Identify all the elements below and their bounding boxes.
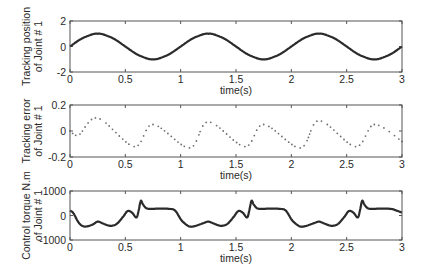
tick-layer: 00.511.522.5310000-1000 <box>39 185 405 253</box>
data-point <box>310 130 312 132</box>
data-point <box>84 126 86 128</box>
data-point <box>253 135 255 137</box>
y-tick-label: 0.2 <box>51 99 66 111</box>
data-point <box>349 144 351 146</box>
x-tick-label: 2 <box>288 158 294 170</box>
data-point <box>170 136 172 138</box>
y-axis-label-line2: of Joint # 1 <box>32 105 44 157</box>
data-point <box>152 124 154 126</box>
data-point <box>268 126 270 128</box>
x-tick-label: 2 <box>288 73 294 85</box>
x-tick-label: 2.5 <box>339 73 354 85</box>
x-tick-label: 0 <box>67 241 73 253</box>
data-point <box>140 140 142 142</box>
data-point <box>259 125 261 127</box>
data-point <box>288 141 290 143</box>
data-point <box>99 118 101 120</box>
data-point <box>248 144 250 146</box>
x-tick-label: 0.5 <box>118 241 133 253</box>
data-point <box>278 133 280 135</box>
data-point <box>370 126 372 128</box>
data-point <box>284 139 286 141</box>
data-point <box>79 133 81 135</box>
data-series-position <box>70 34 402 60</box>
data-point <box>316 120 318 122</box>
subplot-tracking-position: Tracking position of Joint # 1 00.511.52… <box>20 7 405 96</box>
x-tick-label: 0 <box>67 158 73 170</box>
x-axis-label: time(s) <box>220 84 252 96</box>
data-point <box>205 122 207 124</box>
data-point <box>229 136 231 138</box>
data-point <box>137 144 139 146</box>
data-point <box>167 133 169 135</box>
data-point <box>174 138 176 140</box>
data-point <box>308 137 310 139</box>
data-point <box>198 134 200 136</box>
y-axis-label: Tracking error of Joint # 1 <box>20 98 44 163</box>
data-point <box>183 145 185 147</box>
data-point <box>346 141 348 143</box>
data-point <box>388 131 390 133</box>
data-point <box>362 141 364 143</box>
x-tick-label: 2 <box>288 241 294 253</box>
x-tick-label: 0 <box>67 73 73 85</box>
y-axis-label-line1: Tracking position <box>20 7 32 86</box>
data-point <box>251 140 253 142</box>
data-point <box>398 138 400 140</box>
data-point <box>321 120 323 122</box>
data-point <box>118 135 120 137</box>
data-point <box>239 144 241 146</box>
x-axis-label: time(s) <box>220 252 252 264</box>
data-point <box>303 145 305 147</box>
data-point <box>365 135 367 137</box>
data-point <box>367 130 369 132</box>
data-point <box>164 130 166 132</box>
data-point <box>189 147 191 149</box>
data-point <box>82 130 84 132</box>
data-point <box>359 144 361 146</box>
data-point <box>236 142 238 144</box>
x-tick-label: 1 <box>178 73 184 85</box>
data-point <box>274 130 276 132</box>
data-point <box>202 125 204 127</box>
data-point <box>394 135 396 137</box>
y-axis-label: Tracking position of Joint # 1 <box>20 7 44 86</box>
data-point <box>333 129 335 131</box>
data-point <box>222 130 224 132</box>
data-point <box>226 133 228 135</box>
y-tick-label: 2 <box>60 15 66 27</box>
data-point <box>105 122 107 124</box>
data-point <box>244 146 246 148</box>
data-point <box>145 130 147 132</box>
x-axis-label: time(s) <box>220 169 252 181</box>
data-point <box>309 133 311 135</box>
data-series-torque <box>70 201 402 227</box>
x-tick-label: 1 <box>178 241 184 253</box>
x-tick-label: 2.5 <box>339 241 354 253</box>
data-point <box>87 122 89 124</box>
data-point <box>340 136 342 138</box>
data-point <box>373 124 375 126</box>
y-tick-label: -0.2 <box>48 151 66 163</box>
data-point <box>291 144 293 146</box>
data-point <box>91 119 93 121</box>
data-point <box>199 131 201 133</box>
data-point <box>148 125 150 127</box>
y-axis-label-line2: of Joint # 1 <box>32 21 44 73</box>
x-tick-label: 0.5 <box>118 158 133 170</box>
data-point <box>112 128 114 130</box>
data-point <box>210 121 212 123</box>
data-point <box>143 135 145 137</box>
data-point <box>232 139 234 141</box>
data-point <box>343 139 345 141</box>
data-point <box>271 127 273 129</box>
y-tick-label: -2 <box>57 66 66 78</box>
data-point <box>108 125 110 127</box>
x-tick-label: 0.5 <box>118 73 133 85</box>
y-axis-label: Control torque N.m of Joint # 1 <box>20 171 44 260</box>
data-point <box>378 124 380 126</box>
data-point <box>256 129 258 131</box>
data-point <box>122 138 124 140</box>
axes-frame <box>70 105 402 157</box>
data-point <box>196 140 198 142</box>
